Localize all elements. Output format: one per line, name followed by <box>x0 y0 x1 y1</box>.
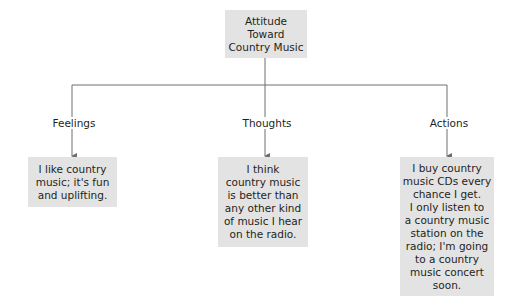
branch-label-actions: Actions <box>422 117 476 129</box>
feelings-description: I like country music; it's fun and uplif… <box>36 163 110 202</box>
branch-label-thoughts: Thoughts <box>234 117 300 129</box>
actions-description: I buy country music CDs every chance I g… <box>403 162 491 292</box>
actions-node: I buy country music CDs every chance I g… <box>400 157 494 296</box>
feelings-node: I like country music; it's fun and uplif… <box>28 157 117 207</box>
thoughts-node: I think country music is better than any… <box>218 157 308 247</box>
root-node: Attitude Toward Country Music <box>225 10 307 58</box>
branch-label-feelings: Feelings <box>44 117 104 129</box>
root-label: Attitude Toward Country Music <box>229 15 304 54</box>
thoughts-description: I think country music is better than any… <box>224 163 302 241</box>
